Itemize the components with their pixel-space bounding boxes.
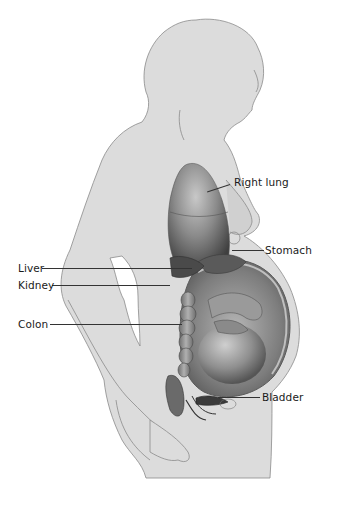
label-right-lung: Right lung	[234, 176, 289, 188]
label-bladder: Bladder	[262, 391, 303, 403]
leader-line-liver	[42, 268, 192, 269]
label-liver: Liver	[18, 262, 44, 274]
leader-line-bladder	[218, 397, 260, 398]
leader-line-stomach	[232, 250, 264, 251]
label-kidney: Kidney	[18, 279, 54, 291]
label-colon: Colon	[18, 318, 48, 330]
label-stomach: Stomach	[265, 244, 312, 256]
leader-line-colon	[50, 324, 182, 325]
leader-line-kidney	[52, 285, 170, 286]
